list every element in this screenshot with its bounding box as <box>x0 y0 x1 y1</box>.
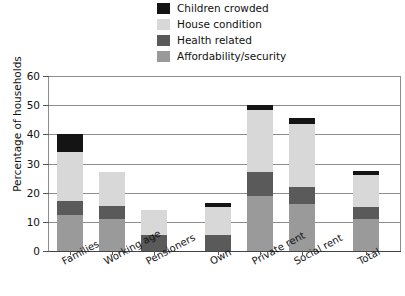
bar-segment <box>99 172 125 206</box>
legend-label: Health related <box>177 35 252 46</box>
bar-segment <box>57 201 83 214</box>
legend-label: Affordability/security <box>177 51 286 62</box>
y-axis-tick-label: 60 <box>0 70 40 82</box>
y-axis-tick-labels: 0102030405060 <box>0 0 40 296</box>
plot-area <box>49 76 400 251</box>
bar-segment <box>353 175 379 207</box>
legend-item: Health related <box>157 33 286 48</box>
y-axis-tick-label: 0 <box>0 245 40 257</box>
legend-label: Children crowded <box>177 3 269 14</box>
bar-segment <box>247 196 273 251</box>
y-axis-tick-label: 10 <box>0 216 40 228</box>
bar-segment <box>289 187 315 205</box>
x-axis-tick <box>302 251 303 255</box>
bar-segment <box>247 172 273 195</box>
legend-item: Affordability/security <box>157 49 286 64</box>
y-axis-tick <box>43 222 49 223</box>
bar-working-age[interactable] <box>99 172 125 251</box>
bar-total[interactable] <box>353 171 379 251</box>
chart-legend: Children crowdedHouse conditionHealth re… <box>157 1 286 65</box>
bar-segment <box>99 206 125 219</box>
legend-swatch-icon <box>157 3 170 14</box>
bar-private-rent[interactable] <box>247 105 273 251</box>
y-axis-tick <box>43 134 49 135</box>
x-axis-tick <box>112 251 113 255</box>
y-axis-tick-label: 30 <box>0 158 40 170</box>
y-axis-tick <box>43 193 49 194</box>
y-axis-tick-label: 20 <box>0 187 40 199</box>
legend-swatch-icon <box>157 51 170 62</box>
y-axis-tick <box>43 105 49 106</box>
legend-swatch-icon <box>157 35 170 46</box>
plot-right-edge <box>400 76 401 252</box>
x-axis-tick <box>218 251 219 255</box>
bar-segment <box>205 207 231 235</box>
gridline <box>49 134 400 135</box>
x-axis-tick <box>366 251 367 255</box>
bar-own[interactable] <box>205 203 231 251</box>
x-axis-tick <box>154 251 155 255</box>
gridline <box>49 76 400 77</box>
bar-segment <box>57 134 83 152</box>
legend-swatch-icon <box>157 19 170 30</box>
legend-item: House condition <box>157 17 286 32</box>
bar-segment <box>289 124 315 187</box>
y-axis-tick <box>43 164 49 165</box>
y-axis-tick-label: 40 <box>0 128 40 140</box>
bar-segment <box>353 207 379 219</box>
legend-label: House condition <box>177 19 262 30</box>
y-axis-tick-label: 50 <box>0 99 40 111</box>
bar-segment <box>57 152 83 202</box>
y-axis-tick <box>43 76 49 77</box>
bar-families[interactable] <box>57 134 83 251</box>
x-axis-tick <box>70 251 71 255</box>
legend-item: Children crowded <box>157 1 286 16</box>
y-axis-tick <box>43 251 49 252</box>
gridline <box>49 164 400 165</box>
bar-segment <box>247 110 273 173</box>
x-axis-tick <box>260 251 261 255</box>
gridline <box>49 105 400 106</box>
